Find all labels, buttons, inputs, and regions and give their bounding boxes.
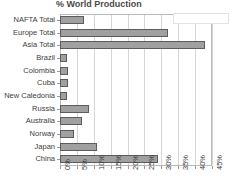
gridline (212, 15, 213, 165)
value-tick-label: 5% (80, 159, 89, 170)
axis-tick (77, 166, 78, 169)
bar[interactable] (60, 29, 168, 37)
bar[interactable] (60, 155, 158, 163)
axis-tick (57, 83, 60, 84)
axis-tick (57, 147, 60, 148)
bar-row (60, 39, 212, 52)
axis-tick (57, 58, 60, 59)
category-label: China (0, 153, 58, 166)
bar[interactable] (60, 130, 74, 138)
bar[interactable] (60, 16, 84, 24)
bar-row (60, 115, 212, 128)
bar-row (60, 77, 212, 90)
category-label: Russia (0, 103, 58, 116)
value-tick-label: 45% (215, 155, 224, 170)
bar[interactable] (60, 67, 68, 75)
axis-tick (57, 159, 60, 160)
axis-tick (60, 166, 61, 169)
axis-tick (128, 166, 129, 169)
category-label: NAFTA Total (0, 14, 58, 27)
category-label: Cuba (0, 77, 58, 90)
axis-tick (94, 166, 95, 169)
bar[interactable] (60, 41, 205, 49)
bar[interactable] (60, 105, 89, 113)
bar-row (60, 90, 212, 103)
axis-tick (57, 121, 60, 122)
axis-tick (195, 166, 196, 169)
axis-tick (57, 33, 60, 34)
category-label: Europe Total (0, 27, 58, 40)
value-tick-label: 35% (181, 155, 190, 170)
category-label: Australia (0, 115, 58, 128)
axis-tick (212, 166, 213, 169)
axis-tick (161, 166, 162, 169)
bar-row (60, 128, 212, 141)
axis-tick (57, 134, 60, 135)
value-tick-label: 40% (198, 155, 207, 170)
category-label: Japan (0, 141, 58, 154)
axis-tick (178, 166, 179, 169)
bars-layer (60, 14, 212, 166)
axis-tick (57, 45, 60, 46)
axis-tick (57, 109, 60, 110)
bar-row (60, 27, 212, 40)
value-tick-label: 25% (147, 155, 156, 170)
axis-tick (111, 166, 112, 169)
bar[interactable] (60, 143, 97, 151)
bar-row (60, 141, 212, 154)
bar-chart: % World Production NAFTA TotalEurope Tot… (0, 0, 232, 193)
category-label: New Caledonia (0, 90, 58, 103)
category-label: Norway (0, 128, 58, 141)
bar-row (60, 52, 212, 65)
value-tick-label: 0% (63, 159, 72, 170)
bar[interactable] (60, 79, 68, 87)
bar[interactable] (60, 92, 67, 100)
value-tick-label: 20% (131, 155, 140, 170)
category-label: Colombia (0, 65, 58, 78)
axis-tick (57, 71, 60, 72)
value-tick-label: 30% (164, 155, 173, 170)
value-axis-labels: 0%5%10%15%20%25%30%35%40%45% (60, 166, 212, 193)
bar[interactable] (60, 54, 67, 62)
category-label: Asia Total (0, 39, 58, 52)
axis-tick (57, 20, 60, 21)
axis-tick (144, 166, 145, 169)
chart-legend (173, 13, 229, 24)
bar-row (60, 103, 212, 116)
bar-row (60, 65, 212, 78)
axis-tick (57, 96, 60, 97)
value-tick-label: 15% (114, 155, 123, 170)
bar[interactable] (60, 117, 82, 125)
category-axis-labels: NAFTA TotalEurope TotalAsia TotalBrazilC… (0, 14, 58, 166)
chart-title: % World Production (56, 0, 196, 11)
value-tick-label: 10% (97, 155, 106, 170)
category-label: Brazil (0, 52, 58, 65)
